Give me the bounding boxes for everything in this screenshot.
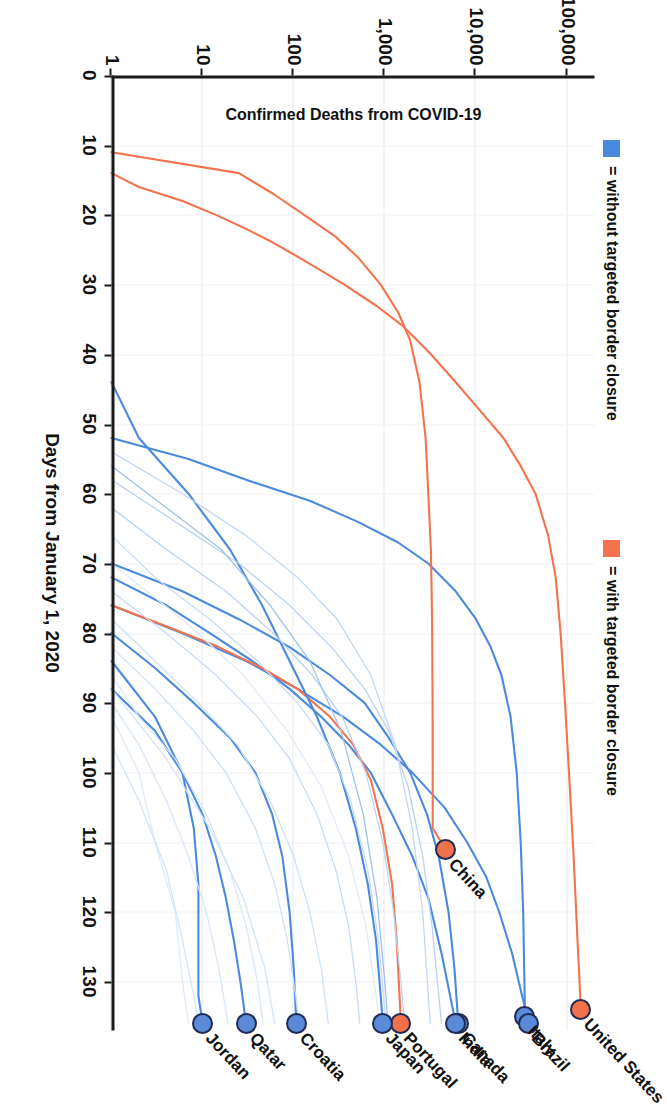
x-axis-title: Days from January 1, 2020 (41, 75, 63, 1030)
endpoint-marker-china[interactable] (435, 838, 456, 859)
legend-swatch-without (604, 140, 621, 157)
plot-area: United StatesItalyBrazilCanadaIndiaPortu… (112, 75, 595, 1030)
series-label-croatia: Croatia (295, 1028, 350, 1084)
series-line-qatar (112, 688, 247, 1023)
endpoint-marker-qatar[interactable] (236, 1013, 257, 1034)
x-tick-label-130: 130 (78, 965, 100, 997)
x-tick-label-30: 30 (78, 273, 100, 295)
y-tick-label-100: 100 (283, 33, 305, 65)
x-tick-label-20: 20 (78, 204, 100, 226)
series-line-other-10 (112, 563, 380, 1023)
x-tick-label-100: 100 (78, 756, 100, 788)
series-line-italy (112, 438, 526, 1017)
endpoint-marker-japan[interactable] (372, 1013, 393, 1034)
series-label-jordan: Jordan (201, 1028, 254, 1083)
legend-swatch-with (604, 540, 621, 557)
x-tick-label-50: 50 (78, 413, 100, 435)
legend-label-with: = with targeted border closure (603, 566, 621, 796)
series-line-other-13 (112, 688, 275, 1023)
series-line-croatia (112, 633, 297, 1023)
series-line-japan (112, 382, 383, 1023)
series-line-other-7 (112, 675, 264, 1024)
x-tick-label-80: 80 (78, 622, 100, 644)
y-tick-label-10: 10 (192, 44, 214, 65)
x-tick-120 (105, 911, 112, 913)
series-line-other-3 (112, 535, 387, 1023)
series-line-other-8 (112, 702, 229, 1023)
x-tick-label-60: 60 (78, 482, 100, 504)
series-line-other-6 (112, 647, 300, 1023)
legend-item-with[interactable]: = with targeted border closure (603, 540, 621, 598)
y-tick-label-10000: 10,000 (465, 7, 487, 65)
x-tick-label-10: 10 (78, 134, 100, 156)
endpoint-marker-jordan[interactable] (192, 1013, 213, 1034)
y-tick-label-100000: 100,000 (556, 0, 578, 65)
x-tick-110 (105, 842, 112, 844)
series-lines (112, 75, 595, 1030)
x-tick-130 (105, 981, 112, 983)
x-tick-label-90: 90 (78, 692, 100, 714)
y-axis-line (112, 75, 595, 78)
x-tick-80 (105, 633, 112, 635)
y-tick-100 (292, 68, 294, 75)
y-tick-10 (201, 68, 203, 75)
endpoint-marker-croatia[interactable] (286, 1013, 307, 1034)
x-axis-line (112, 75, 115, 1030)
y-tick-1000 (383, 68, 385, 75)
legend-label-without: = without targeted border closure (603, 166, 621, 421)
x-tick-90 (105, 702, 112, 704)
y-tick-label-1: 1 (101, 54, 123, 65)
y-tick-1 (110, 68, 112, 75)
y-axis-title: Confirmed Deaths from COVID-19 (119, 105, 589, 123)
x-tick-label-110: 110 (78, 826, 100, 857)
chart-canvas: United StatesItalyBrazilCanadaIndiaPortu… (45, 30, 605, 1075)
x-tick-label-120: 120 (78, 895, 100, 927)
series-line-canada (112, 563, 459, 1023)
x-tick-20 (105, 214, 112, 216)
legend-item-without[interactable]: = without targeted border closure (603, 140, 621, 198)
legend: = with targeted border closure= without … (583, 0, 641, 1105)
endpoint-marker-india[interactable] (445, 1013, 466, 1034)
x-tick-10 (105, 145, 112, 147)
x-tick-label-40: 40 (78, 343, 100, 365)
series-line-other-14 (112, 465, 388, 1023)
y-tick-label-1000: 1,000 (374, 17, 396, 65)
y-tick-10000 (474, 68, 476, 75)
x-tick-30 (105, 284, 112, 286)
x-tick-100 (105, 772, 112, 774)
x-tick-40 (105, 354, 112, 356)
y-tick-100000 (565, 68, 567, 75)
x-tick-label-0: 0 (78, 70, 100, 81)
x-tick-label-70: 70 (78, 552, 100, 574)
x-tick-70 (105, 563, 112, 565)
x-tick-50 (105, 424, 112, 426)
x-tick-60 (105, 493, 112, 495)
